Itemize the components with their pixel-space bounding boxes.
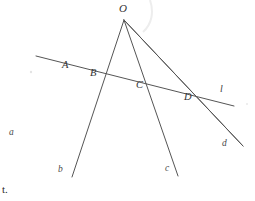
ray-label-c: c: [165, 164, 169, 174]
margin-text-fragment: t.: [2, 184, 8, 195]
line-label-l: l: [220, 84, 223, 94]
ray-b: [124, 20, 178, 176]
ray-label-b: b: [58, 165, 63, 175]
point-label-c: C: [136, 80, 143, 91]
ray-label-d: d: [222, 139, 227, 149]
ray-a: [72, 20, 124, 177]
point-label-b: B: [90, 68, 96, 79]
apex-label-o: O: [119, 3, 127, 14]
geometry-figure: O A B C D a b c d l t.: [0, 0, 255, 201]
point-label-a: A: [62, 60, 68, 71]
point-label-d: D: [184, 92, 192, 103]
diagram-canvas: [0, 0, 255, 201]
ray-group: [72, 20, 243, 177]
ray-label-a: a: [9, 128, 14, 138]
